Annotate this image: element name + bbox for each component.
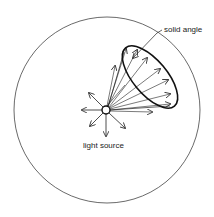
cone-arrows — [107, 49, 170, 112]
radiating-arrows — [82, 93, 125, 136]
light-source-label: light source — [83, 141, 124, 150]
solid-angle-diagram: solid angle light source — [0, 0, 214, 217]
solid-angle-ellipse — [113, 37, 188, 117]
light-source-icon — [102, 106, 110, 114]
solid-angle-label: solid angle — [164, 25, 202, 34]
solid-angle-pointer — [133, 30, 162, 58]
